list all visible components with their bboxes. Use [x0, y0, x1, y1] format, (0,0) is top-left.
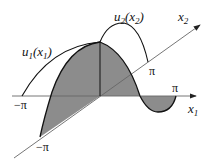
- shaded-region-x1-positive: [100, 42, 140, 96]
- x1-min-label: −π: [14, 98, 27, 112]
- x2-axis-label: x2: [177, 9, 189, 26]
- diagram-canvas: u1(x1) u2(x2) x2 x1 π −π π −π: [0, 0, 212, 166]
- x2-min-label: −π: [36, 140, 49, 154]
- u2-label: u2(x2): [114, 9, 144, 26]
- u1-label: u1(x1): [22, 44, 52, 61]
- x1-axis-label: x1: [187, 101, 198, 118]
- x2-max-label: π: [149, 64, 155, 78]
- x1-max-label: π: [172, 81, 178, 95]
